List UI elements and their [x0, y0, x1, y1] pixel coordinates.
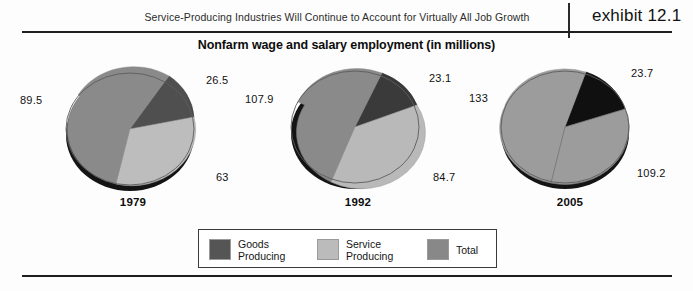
exhibit-number-label: exhibit 12.1 [592, 6, 681, 26]
legend-label-service-producing: Service Producing [346, 238, 393, 262]
legend-item-total: Total [427, 235, 478, 264]
legend-swatch-goods-producing [209, 239, 231, 260]
pie-1979-value-goods: 26.5 [206, 74, 228, 86]
legend-label-total: Total [456, 244, 478, 256]
chart-subtitle: Nonfarm wage and salary employment (in m… [0, 38, 693, 52]
pie-1992-value-goods: 23.1 [429, 72, 451, 84]
header-horizontal-rule [22, 31, 672, 33]
pie-charts-container: 89.5 26.5 63 1979 107.9 23.1 84.7 1992 [0, 55, 693, 220]
pie-2005-value-goods: 23.7 [631, 67, 653, 79]
pie-1979-value-service: 63 [216, 171, 229, 183]
exhibit-caption: Service-Producing Industries Will Contin… [133, 11, 541, 23]
pie-1979-year-label: 1979 [18, 196, 248, 208]
pie-chart-1979: 89.5 26.5 63 1979 [18, 55, 248, 220]
pie-1979-value-total: 89.5 [20, 94, 42, 106]
pie-1992-year-label: 1992 [243, 196, 473, 208]
legend-swatch-service-producing [317, 239, 339, 260]
legend-label-goods-producing: Goods Producing [238, 238, 285, 262]
exhibit-header: Service-Producing Industries Will Contin… [0, 0, 693, 33]
pie-2005-value-service: 109.2 [637, 167, 666, 179]
exhibit-page: Service-Producing Industries Will Contin… [0, 0, 693, 291]
legend-item-goods-producing: Goods Producing [209, 235, 285, 264]
legend-swatch-total [427, 239, 449, 260]
legend-item-service-producing: Service Producing [317, 235, 393, 264]
footer-horizontal-rule [22, 275, 672, 277]
chart-legend: Goods Producing Service Producing Total [198, 229, 497, 268]
pie-chart-2005: 133 23.7 109.2 2005 [455, 55, 685, 220]
pie-2005-value-total: 133 [469, 92, 488, 104]
pie-2005-year-label: 2005 [455, 196, 685, 208]
pie-1992-value-total: 107.9 [245, 93, 274, 105]
pie-1992-value-service: 84.7 [433, 171, 455, 183]
pie-chart-1992: 107.9 23.1 84.7 1992 [243, 55, 473, 220]
